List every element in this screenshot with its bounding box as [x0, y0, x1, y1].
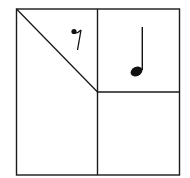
diagonal-divider — [17, 9, 98, 92]
diagram-canvas — [0, 0, 190, 178]
eighth-rest-icon — [71, 29, 81, 50]
music-fraction-diagram — [0, 0, 190, 178]
quarter-note-icon — [129, 27, 144, 78]
